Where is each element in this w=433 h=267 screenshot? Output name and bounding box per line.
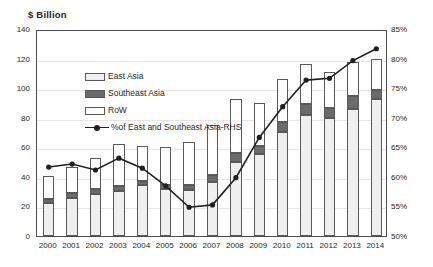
percent-line-marker[interactable] (46, 164, 51, 169)
line-marker-swatch-icon (85, 124, 109, 132)
y-axis-left-tick: 100 (0, 85, 30, 93)
percent-line-marker[interactable] (304, 77, 309, 82)
x-axis-tick: 2000 (36, 241, 59, 250)
legend-item-east-asia[interactable]: East Asia (85, 68, 300, 85)
y-axis-left-tick: 120 (0, 56, 30, 64)
y-axis-left-tick: 80 (0, 115, 30, 123)
percent-line-marker[interactable] (233, 175, 238, 180)
x-axis-tick: 2012 (317, 241, 340, 250)
y-axis-title: $ Billion (28, 9, 67, 20)
southeast-asia-swatch-icon (85, 90, 105, 98)
percent-line-marker[interactable] (93, 167, 98, 172)
percent-line-marker[interactable] (116, 156, 121, 161)
legend-item-southeast-asia[interactable]: Southeast Asia (85, 85, 300, 102)
x-axis-tick: 2013 (340, 241, 363, 250)
legend-label-southeast-asia: Southeast Asia (108, 89, 165, 98)
x-axis: 2000200120022003200420052006200720082009… (36, 241, 387, 257)
percent-line-marker[interactable] (374, 46, 379, 51)
legend-label-east-asia: East Asia (108, 72, 143, 81)
x-axis-tick: 2002 (83, 241, 106, 250)
legend-label-row: RoW (108, 106, 127, 115)
x-axis-tick: 2001 (59, 241, 82, 250)
percent-line-marker[interactable] (140, 166, 145, 171)
x-axis-tick: 2006 (176, 241, 199, 250)
legend-item-percent-line[interactable]: %of East and Southeast Asia-RHS (85, 119, 300, 136)
y-axis-right-tick: 55% (391, 203, 423, 211)
percent-line-marker[interactable] (327, 76, 332, 81)
legend: East Asia Southeast Asia RoW %of East an… (85, 68, 300, 136)
y-axis-left: 140120100806040200 (0, 30, 32, 237)
y-axis-right-tick: 75% (391, 85, 423, 93)
chart-container: $ Billion 140120100806040200 East Asia S… (0, 0, 433, 267)
y-axis-right-tick: 65% (391, 144, 423, 152)
x-axis-tick: 2014 (364, 241, 387, 250)
y-axis-left-tick: 40 (0, 174, 30, 182)
y-axis-left-tick: 140 (0, 26, 30, 34)
y-axis-right-tick: 80% (391, 56, 423, 64)
percent-line-marker[interactable] (70, 161, 75, 166)
percent-line-marker[interactable] (163, 183, 168, 188)
legend-label-percent-line: %of East and Southeast Asia-RHS (111, 123, 241, 132)
x-axis-tick: 2003 (106, 241, 129, 250)
y-axis-right-tick: 50% (391, 233, 423, 241)
percent-line-marker[interactable] (187, 205, 192, 210)
y-axis-right: 85%80%75%70%65%60%55%50% (391, 30, 431, 237)
x-axis-tick: 2005 (153, 241, 176, 250)
y-axis-right-tick: 60% (391, 174, 423, 182)
x-axis-tick: 2007 (200, 241, 223, 250)
percent-line-marker[interactable] (350, 58, 355, 63)
x-axis-tick: 2011 (293, 241, 316, 250)
x-axis-tick: 2008 (223, 241, 246, 250)
legend-item-row[interactable]: RoW (85, 102, 300, 119)
y-axis-right-tick: 70% (391, 115, 423, 123)
y-axis-left-tick: 20 (0, 203, 30, 211)
y-axis-right-tick: 85% (391, 26, 423, 34)
x-axis-tick: 2004 (130, 241, 153, 250)
row-swatch-icon (85, 107, 105, 115)
y-axis-left-tick: 0 (0, 233, 30, 241)
y-axis-left-tick: 60 (0, 144, 30, 152)
x-axis-tick: 2010 (270, 241, 293, 250)
east-asia-swatch-icon (85, 73, 105, 81)
plot-area: East Asia Southeast Asia RoW %of East an… (36, 30, 387, 237)
x-axis-tick: 2009 (247, 241, 270, 250)
percent-line-marker[interactable] (210, 202, 215, 207)
